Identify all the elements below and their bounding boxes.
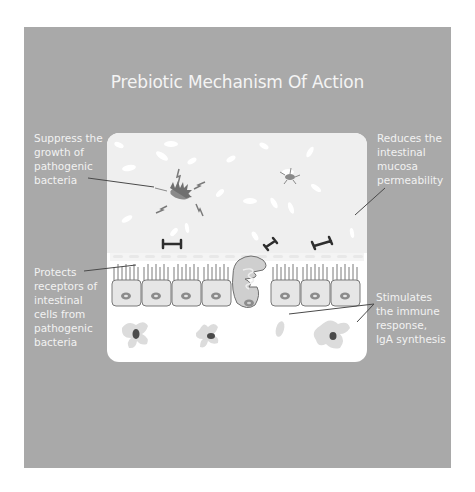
label-stimulates-immune: Stimulates the immune response, IgA synt… — [376, 290, 446, 346]
epithelial-cell — [271, 264, 300, 306]
diagram-title: Prebiotic Mechanism Of Action — [0, 72, 475, 92]
epithelial-cell — [301, 264, 330, 306]
goblet-cell — [233, 256, 267, 308]
epithelial-cell — [112, 264, 141, 306]
label-protects-receptors: Protects receptors of intestinal cells f… — [34, 265, 97, 349]
label-reduces-permeability: Reduces the intestinal mucosa permeabili… — [377, 131, 443, 187]
epithelial-cell — [172, 264, 201, 306]
prebiotic-fiber-icon — [163, 237, 332, 250]
epithelial-cell — [142, 264, 171, 306]
intestine-svg — [107, 133, 367, 362]
epithelial-cell — [202, 264, 231, 306]
label-suppress-growth: Suppress the growth of pathogenic bacter… — [34, 131, 103, 187]
epithelial-cell — [331, 264, 360, 306]
intestine-illustration — [107, 133, 367, 362]
immune-cell-icon — [122, 320, 350, 348]
bacteria-rods-icon — [113, 141, 354, 242]
pathogen-bacterium-icon — [155, 169, 205, 216]
